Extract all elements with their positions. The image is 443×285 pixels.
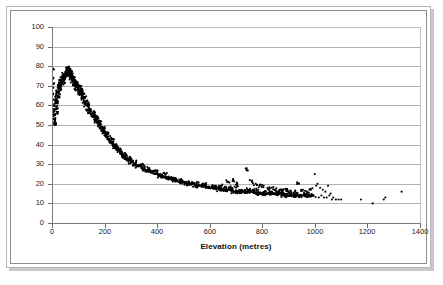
x-tick-label-1400: 1400 <box>400 227 440 236</box>
x-tick-mark-200 <box>105 224 106 228</box>
y-tick-mark-60 <box>48 105 52 106</box>
y-tick-label-0: 0 <box>20 219 44 227</box>
x-tick-label-400: 400 <box>137 227 177 236</box>
x-tick-mark-600 <box>210 224 211 228</box>
y-tick-label-10: 10 <box>20 199 44 207</box>
y-tick-label-50: 50 <box>20 121 44 129</box>
y-tick-label-60: 60 <box>20 101 44 109</box>
y-tick-label-30: 30 <box>20 160 44 168</box>
x-tick-mark-800 <box>262 224 263 228</box>
y-tick-label-100: 100 <box>20 23 44 31</box>
y-tick-label-90: 90 <box>20 43 44 51</box>
x-tick-mark-400 <box>157 224 158 228</box>
y-tick-mark-70 <box>48 86 52 87</box>
y-tick-mark-40 <box>48 145 52 146</box>
x-tick-label-1000: 1000 <box>295 227 335 236</box>
x-tick-mark-1000 <box>315 224 316 228</box>
x-tick-label-800: 800 <box>242 227 282 236</box>
y-tick-mark-80 <box>48 66 52 67</box>
y-tick-mark-20 <box>48 184 52 185</box>
y-tick-mark-10 <box>48 203 52 204</box>
x-tick-mark-1400 <box>420 224 421 228</box>
y-tick-label-40: 40 <box>20 141 44 149</box>
chart-figure: 0102030405060708090100020040060080010001… <box>0 0 443 285</box>
y-tick-mark-50 <box>48 125 52 126</box>
y-tick-mark-100 <box>48 27 52 28</box>
y-tick-mark-90 <box>48 47 52 48</box>
x-tick-mark-1200 <box>367 224 368 228</box>
x-tick-label-0: 0 <box>32 227 72 236</box>
x-tick-label-1200: 1200 <box>347 227 387 236</box>
axis-ticks: 0102030405060708090100020040060080010001… <box>0 0 443 285</box>
y-tick-label-70: 70 <box>20 82 44 90</box>
y-tick-label-80: 80 <box>20 62 44 70</box>
y-tick-label-20: 20 <box>20 180 44 188</box>
x-tick-label-200: 200 <box>85 227 125 236</box>
x-tick-mark-0 <box>52 224 53 228</box>
x-tick-label-600: 600 <box>190 227 230 236</box>
y-tick-mark-30 <box>48 164 52 165</box>
